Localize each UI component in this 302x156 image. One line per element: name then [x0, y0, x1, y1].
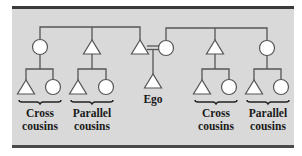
- group-label-right-parallel-line2: cousins: [250, 120, 286, 132]
- triangle-icon-mothers-brother: [207, 40, 224, 54]
- ego-label: Ego: [143, 93, 162, 106]
- triangle-icon-ego: [145, 74, 162, 88]
- triangle-icon-father: [132, 40, 149, 54]
- circle-icon-cousin: [99, 80, 114, 95]
- triangle-icon-cousin: [18, 80, 35, 94]
- circle-icon-fathers-sister: [33, 40, 48, 55]
- circle-icon-cousin: [222, 80, 237, 95]
- group-label-left-parallel-line2: cousins: [74, 120, 110, 132]
- triangle-icon-cousin: [194, 80, 211, 94]
- brace-icon: [71, 100, 113, 104]
- group-label-right-cross-line2: cousins: [198, 120, 234, 132]
- triangle-icon-fathers-brother: [84, 40, 101, 54]
- group-label-right-parallel-line1: Parallel: [249, 107, 287, 119]
- brace-icon: [247, 100, 289, 104]
- brace-icon: [195, 100, 237, 104]
- triangle-icon-cousin: [246, 80, 263, 94]
- brace-icon: [19, 100, 61, 104]
- group-label-right-cross-line1: Cross: [202, 107, 230, 119]
- circle-icon-mothers-sister: [260, 41, 275, 56]
- circle-icon-cousin: [274, 80, 289, 95]
- group-label-left-cross-line2: cousins: [22, 120, 58, 132]
- circle-icon-mother: [159, 41, 174, 56]
- triangle-icon-cousin: [70, 80, 87, 94]
- group-label-left-cross-line1: Cross: [26, 107, 54, 119]
- group-label-left-parallel-line1: Parallel: [73, 107, 111, 119]
- connector-lines: [26, 27, 281, 80]
- circle-icon-cousin: [46, 80, 61, 95]
- kinship-diagram: Ego Cross cousins Parallel cousins Cross…: [0, 0, 302, 156]
